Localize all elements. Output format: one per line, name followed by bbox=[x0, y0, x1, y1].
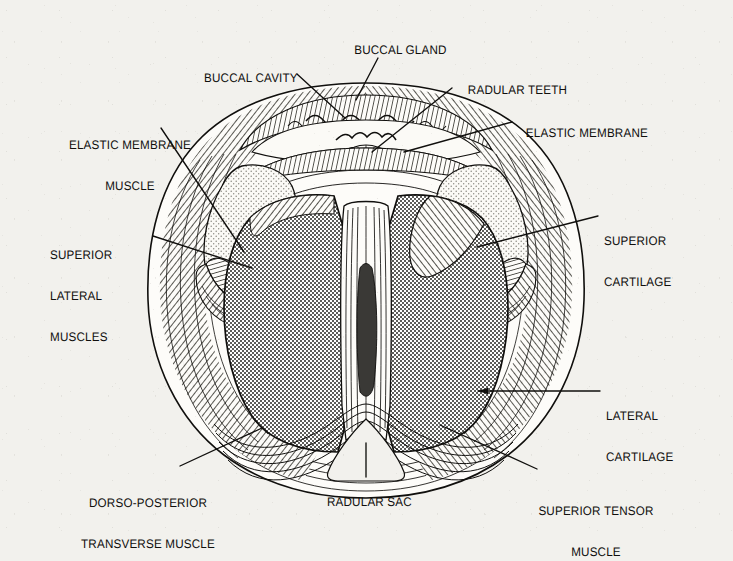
label-radular-sac: RADULAR SAC bbox=[298, 482, 433, 509]
label-superior-cartilage: SUPERIOR CARTILAGE bbox=[604, 208, 717, 303]
label-elastic-membrane-right-text: ELASTIC MEMBRANE bbox=[526, 126, 648, 140]
label-lateral-cartilage-line2: CARTILAGE bbox=[606, 451, 719, 465]
label-dorso-posterior-line2: TRANSVERSE MUSCLE bbox=[59, 538, 238, 552]
label-radular-teeth: RADULAR TEETH bbox=[461, 70, 621, 97]
label-superior-lateral-line1: SUPERIOR bbox=[50, 249, 172, 263]
label-buccal-cavity: BUCCAL CAVITY bbox=[179, 58, 315, 85]
label-radular-teeth-text: RADULAR TEETH bbox=[468, 83, 567, 97]
label-lateral-cartilage-line1: LATERAL bbox=[606, 410, 719, 424]
label-elastic-membrane-muscle-line2: MUSCLE bbox=[36, 180, 224, 194]
label-elastic-membrane-right: ELASTIC MEMBRANE bbox=[519, 113, 707, 140]
label-superior-tensor-line1: SUPERIOR TENSOR bbox=[525, 505, 668, 519]
label-buccal-gland-text: BUCCAL GLAND bbox=[354, 43, 446, 57]
label-buccal-cavity-text: BUCCAL CAVITY bbox=[204, 71, 298, 85]
label-elastic-membrane-muscle-line1: ELASTIC MEMBRANE bbox=[36, 139, 224, 153]
label-superior-cartilage-line1: SUPERIOR bbox=[604, 235, 717, 249]
label-buccal-gland: BUCCAL GLAND bbox=[327, 30, 468, 57]
label-superior-lateral-muscles: SUPERIOR LATERAL MUSCLES bbox=[50, 222, 172, 358]
label-superior-cartilage-line2: CARTILAGE bbox=[604, 276, 717, 290]
label-dorso-posterior-line1: DORSO-POSTERIOR bbox=[59, 497, 238, 511]
label-dorso-posterior-transverse-muscle: DORSO-POSTERIOR TRANSVERSE MUSCLE bbox=[59, 470, 238, 561]
label-lateral-cartilage: LATERAL CARTILAGE bbox=[606, 383, 719, 478]
label-superior-tensor-muscle: SUPERIOR TENSOR MUSCLE bbox=[525, 478, 668, 561]
label-superior-tensor-line2: MUSCLE bbox=[525, 546, 668, 560]
label-superior-lateral-line3: MUSCLES bbox=[50, 331, 172, 345]
label-elastic-membrane-muscle: ELASTIC MEMBRANE MUSCLE bbox=[36, 112, 224, 207]
label-radular-sac-text: RADULAR SAC bbox=[327, 495, 412, 509]
label-superior-lateral-line2: LATERAL bbox=[50, 290, 172, 304]
